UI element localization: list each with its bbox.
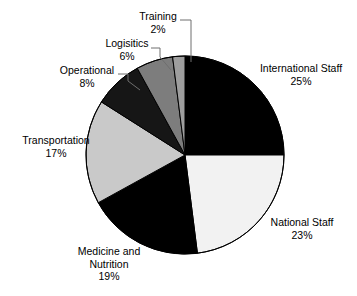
- slice-label-medicine-name-line2: Nutrition: [60, 258, 158, 271]
- slice-label-training: Training 2%: [126, 10, 190, 35]
- slice-label-national-staff: National Staff 23%: [256, 216, 348, 241]
- slice-label-medicine-percent: 19%: [60, 270, 158, 283]
- slice-label-logistics-percent: 6%: [92, 50, 162, 63]
- slice-label-transportation-percent: 17%: [10, 147, 102, 160]
- slice-label-international-staff-name: International Staff: [246, 62, 356, 75]
- slice-label-operational: Operational 8%: [48, 64, 126, 89]
- slice-label-training-name: Training: [126, 10, 190, 23]
- slice-label-medicine-name-line1: Medicine and: [60, 245, 158, 258]
- slice-label-operational-name: Operational: [48, 64, 126, 77]
- slice-label-logistics-name: Logisitics: [92, 37, 162, 50]
- slice-label-international-staff: International Staff 25%: [246, 62, 356, 87]
- pie-chart-figure: Training 2% Logisitics 6% Operational 8%…: [0, 0, 357, 296]
- slice-label-transportation-name: Transportation: [10, 134, 102, 147]
- slice-label-medicine-and-nutrition: Medicine and Nutrition 19%: [60, 245, 158, 283]
- slice-label-logistics: Logisitics 6%: [92, 37, 162, 62]
- slice-label-operational-percent: 8%: [48, 77, 126, 90]
- slice-label-international-staff-percent: 25%: [246, 75, 356, 88]
- slice-label-national-staff-percent: 23%: [256, 229, 348, 242]
- slice-label-training-percent: 2%: [126, 23, 190, 36]
- slice-label-transportation: Transportation 17%: [10, 134, 102, 159]
- slice-label-national-staff-name: National Staff: [256, 216, 348, 229]
